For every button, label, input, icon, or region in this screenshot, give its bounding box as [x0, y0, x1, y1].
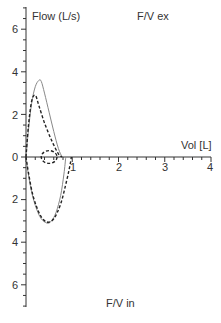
- y-tick-label-2-down: 2: [12, 194, 18, 205]
- x-tick-label-1: 1: [70, 162, 76, 173]
- y-tick-label-4-down: 4: [12, 237, 18, 248]
- y-tick-label-2-up: 2: [12, 110, 18, 121]
- x-axis-label: Vol [L]: [181, 140, 212, 151]
- series-1: [26, 157, 66, 223]
- x-tick-label-2: 2: [116, 162, 122, 173]
- x-tick-label-3: 3: [162, 162, 168, 173]
- y-tick-label-6-down: 6: [12, 280, 18, 291]
- y-ticks: [21, 8, 26, 306]
- series-group: [26, 80, 71, 224]
- x-tick-label-4: 4: [207, 162, 213, 173]
- series-0: [26, 80, 62, 157]
- top-annotation: F/V ex: [137, 11, 169, 22]
- y-tick-label-6-up: 6: [12, 24, 18, 35]
- y-axis-label: Flow (L/s): [32, 11, 80, 22]
- bottom-annotation: F/V in: [106, 298, 135, 309]
- series-2: [26, 95, 62, 157]
- y-tick-label-0: 0: [12, 152, 18, 163]
- y-tick-label-4-up: 4: [12, 67, 18, 78]
- flow-volume-chart: [0, 0, 221, 323]
